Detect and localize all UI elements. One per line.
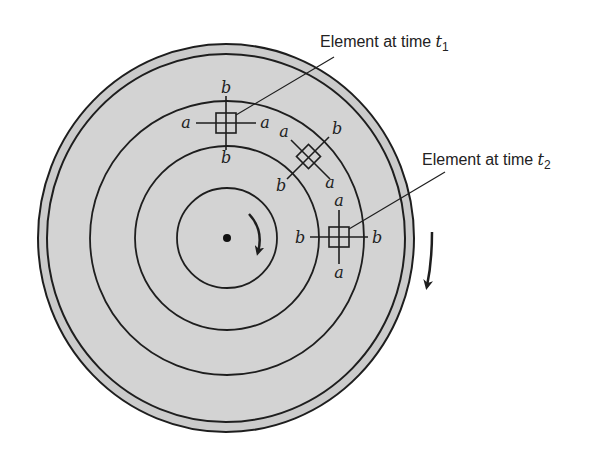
callout-t2: Element at time t2 <box>422 150 551 172</box>
element-t1-label-top: b <box>221 78 231 97</box>
rotation-arrow-outer-icon <box>427 232 432 286</box>
rotating-disc-diagram: b a a b a b b a a b b a Element at time … <box>0 0 602 458</box>
element-intermediate-label-upper-right: b <box>332 119 342 138</box>
element-t1-label-left: a <box>181 113 191 132</box>
center-axis-dot <box>223 234 231 242</box>
element-t2-label-top: a <box>334 191 344 210</box>
element-t2-label-bottom: a <box>334 263 344 282</box>
callout-t1: Element at time t1 <box>320 32 449 54</box>
element-t2-label-right: b <box>372 228 382 247</box>
element-t2-label-left: b <box>295 228 305 247</box>
element-intermediate-label-lower-left: b <box>276 176 286 195</box>
element-intermediate-label-lower-right: a <box>325 173 335 192</box>
element-t1-label-right: a <box>260 113 270 132</box>
element-t1-label-bottom: b <box>221 148 231 167</box>
element-intermediate-label-upper-left: a <box>279 122 289 141</box>
